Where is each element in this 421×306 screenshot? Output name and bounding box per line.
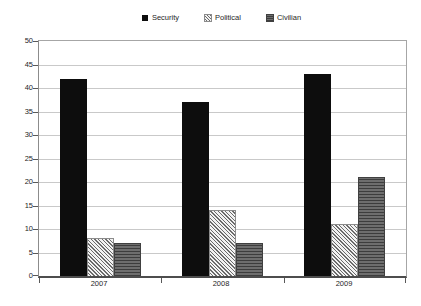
x-axis-label-2009: 2009 bbox=[283, 280, 405, 288]
y-axis-tick bbox=[33, 88, 38, 89]
security-swatch-icon bbox=[142, 15, 148, 21]
y-axis-tick bbox=[33, 206, 38, 207]
y-axis-tick bbox=[33, 65, 38, 66]
y-axis-tick bbox=[33, 112, 38, 113]
gridline bbox=[39, 65, 406, 66]
bar-chart-screen: Security Political Civilian 051015202530… bbox=[0, 0, 421, 306]
x-axis-label-2008: 2008 bbox=[160, 280, 282, 288]
y-axis-tick bbox=[33, 159, 38, 160]
y-axis-tick-label: 5 bbox=[13, 249, 33, 257]
y-axis-tick-label: 30 bbox=[13, 131, 33, 139]
y-axis-tick bbox=[33, 41, 38, 42]
y-axis-tick bbox=[33, 253, 38, 254]
plot-area: 05101520253035404550 bbox=[38, 40, 407, 278]
legend-label-political: Political bbox=[215, 14, 241, 22]
legend-label-security: Security bbox=[152, 14, 179, 22]
gridline bbox=[39, 88, 406, 89]
legend-item-political: Political bbox=[205, 14, 241, 22]
x-axis-label-2007: 2007 bbox=[38, 280, 160, 288]
y-axis-tick-label: 40 bbox=[13, 84, 33, 92]
x-axis-labels: 2007 2008 2009 bbox=[38, 280, 405, 290]
y-axis-tick bbox=[33, 182, 38, 183]
civilian-swatch-icon bbox=[267, 15, 273, 21]
bar-security-2009 bbox=[304, 74, 331, 276]
bar-civilian-2009 bbox=[358, 177, 385, 276]
y-axis-tick bbox=[33, 275, 38, 276]
y-axis-tick-label: 0 bbox=[13, 272, 33, 280]
gridline bbox=[39, 206, 406, 207]
bar-political-2009 bbox=[331, 224, 358, 276]
x-axis-tick bbox=[405, 278, 406, 283]
y-axis-tick-label: 45 bbox=[13, 61, 33, 69]
y-axis-tick-label: 15 bbox=[13, 202, 33, 210]
y-axis-tick bbox=[33, 229, 38, 230]
bar-security-2008 bbox=[182, 102, 209, 276]
legend-item-civilian: Civilian bbox=[267, 14, 301, 22]
chart-legend: Security Political Civilian bbox=[38, 12, 405, 24]
bar-civilian-2007 bbox=[114, 243, 141, 276]
y-axis-tick-label: 10 bbox=[13, 225, 33, 233]
bar-political-2007 bbox=[87, 238, 114, 276]
y-axis-tick-label: 50 bbox=[13, 37, 33, 45]
gridline bbox=[39, 112, 406, 113]
legend-item-security: Security bbox=[142, 14, 179, 22]
legend-label-civilian: Civilian bbox=[277, 14, 301, 22]
gridline bbox=[39, 135, 406, 136]
gridline bbox=[39, 159, 406, 160]
political-swatch-icon bbox=[205, 15, 211, 21]
bar-civilian-2008 bbox=[236, 243, 263, 276]
y-axis-tick-label: 20 bbox=[13, 178, 33, 186]
y-axis-tick-label: 35 bbox=[13, 108, 33, 116]
gridline bbox=[39, 182, 406, 183]
y-axis-tick bbox=[33, 135, 38, 136]
bar-security-2007 bbox=[60, 79, 87, 276]
y-axis-tick-label: 25 bbox=[13, 155, 33, 163]
bar-political-2008 bbox=[209, 210, 236, 276]
